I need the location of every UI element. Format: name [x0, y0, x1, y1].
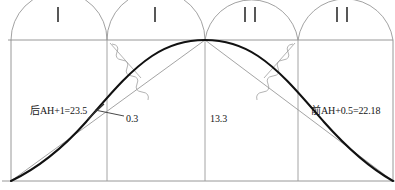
arc-4 [298, 0, 393, 40]
ease-leader-line [95, 110, 124, 116]
ease-amount-label: 0.3 [126, 113, 138, 124]
sleeve-cap-diagram: 后AH+1=23.5 0.3 13.3 前AH+0.5=22.18 [0, 0, 395, 190]
notch-arcs-group [11, 0, 393, 40]
ease-chain-left-edge [110, 43, 141, 78]
arc-2 [107, 0, 205, 40]
ease-chain-right-group [257, 43, 295, 100]
draft-canvas [0, 0, 395, 190]
ease-chain-left [112, 44, 148, 100]
back-armhole-label: 后AH+1=23.5 [30, 105, 87, 116]
ease-chain-left-group [110, 43, 148, 100]
cap-height-label: 13.3 [210, 113, 227, 124]
notch-ticks-group [58, 7, 347, 22]
ease-chain-right [257, 44, 293, 100]
division-lines-group [107, 40, 298, 181]
arc-1 [11, 0, 107, 40]
front-armhole-label: 前AH+0.5=22.18 [311, 105, 380, 116]
arc-3 [205, 0, 298, 40]
